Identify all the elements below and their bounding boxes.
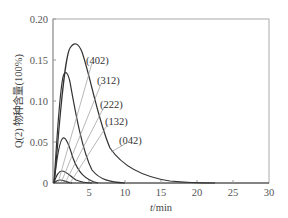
x-tick-label: 5 [86, 187, 91, 198]
curves [54, 44, 215, 183]
x-tick-label: 25 [228, 187, 239, 198]
y-tick-label: 0.10 [30, 96, 48, 107]
y-tick-label: 0.15 [30, 55, 48, 66]
curve-label-312: (312) [97, 75, 120, 87]
x-tick-label: 15 [156, 187, 167, 198]
curve-312 [54, 73, 125, 183]
plot-frame [53, 19, 269, 183]
curve-label-132: (132) [105, 116, 128, 128]
y-axis-title: Q(2) 物种含量(100%) [12, 54, 25, 148]
curve-label-222: (222) [100, 99, 123, 111]
x-tick-label: 30 [264, 187, 275, 198]
curve-label-042: (042) [119, 135, 142, 147]
x-tick-label: 10 [120, 187, 131, 198]
y-tick-label: 0 [43, 178, 48, 189]
x-axis-title: t/min [150, 202, 173, 213]
curve-label-402: (402) [86, 55, 109, 67]
y-tick-label: 0.20 [30, 14, 48, 25]
curve-222 [54, 138, 98, 183]
y-tick-label: 0.05 [30, 137, 48, 148]
x-tick-label: 20 [192, 187, 203, 198]
curve-402 [54, 44, 215, 183]
chart: 0 0.05 0.10 0.15 0.20 0 5 10 15 20 25 30… [0, 0, 288, 218]
